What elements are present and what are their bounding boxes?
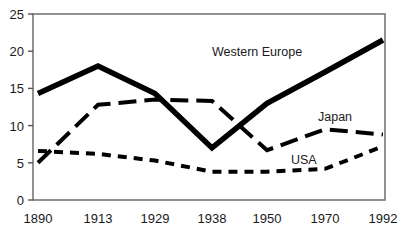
- y-tick-label-15: 15: [10, 81, 24, 96]
- y-tick-label-10: 10: [10, 119, 24, 134]
- x-tick-label-1938: 1938: [198, 211, 227, 226]
- series-label-western-europe: Western Europe: [212, 45, 302, 59]
- series-label-japan: Japan: [318, 110, 352, 124]
- series-annotations: Western Europe Japan USA: [212, 45, 352, 167]
- x-axis-tick-labels: 1890 1913 1929 1938 1950 1970 1992: [24, 211, 398, 226]
- y-tick-label-0: 0: [17, 193, 24, 208]
- plot-frame: [33, 14, 385, 200]
- x-tick-label-1992: 1992: [369, 211, 398, 226]
- chart-container: 0 5 10 15 20 25 1890 1913 1929 1938 1950…: [0, 0, 410, 244]
- x-tick-label-1970: 1970: [311, 211, 340, 226]
- x-tick-label-1929: 1929: [141, 211, 170, 226]
- y-tick-label-25: 25: [10, 7, 24, 22]
- x-tick-label-1913: 1913: [84, 211, 113, 226]
- x-tick-label-1890: 1890: [24, 211, 53, 226]
- x-tick-label-1950: 1950: [253, 211, 282, 226]
- y-tick-label-20: 20: [10, 44, 24, 59]
- y-tick-label-5: 5: [17, 156, 24, 171]
- series-label-usa: USA: [291, 153, 317, 167]
- series-group: [38, 40, 383, 172]
- line-chart: 0 5 10 15 20 25 1890 1913 1929 1938 1950…: [0, 0, 410, 244]
- y-axis-tick-labels: 0 5 10 15 20 25: [10, 7, 24, 208]
